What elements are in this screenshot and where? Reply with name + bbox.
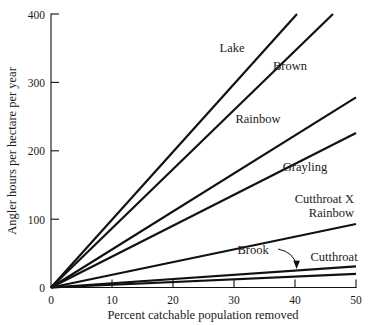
series-label-rainbow: Rainbow — [235, 112, 280, 126]
series-label-cutthroat-x-rainbow-line1: Cutthroat X — [295, 192, 354, 206]
series-line-brown — [51, 14, 333, 288]
series-labels: Lake Brown Rainbow Grayling Cutthroat X … — [220, 41, 359, 264]
x-tick-label-20: 20 — [167, 294, 179, 306]
x-tick-label-10: 10 — [106, 294, 118, 306]
y-axis-title: Angler hours per hectare per year — [5, 66, 19, 234]
x-tick-label-30: 30 — [228, 294, 240, 306]
chart-container: 400 300 200 100 0 0 10 20 30 40 50 Perce… — [0, 0, 369, 325]
y-tick-label-400: 400 — [28, 9, 46, 21]
x-tick-label-50: 50 — [350, 294, 362, 306]
brook-leader-arrow — [278, 249, 300, 269]
series-lines — [51, 14, 356, 288]
series-label-lake: Lake — [220, 41, 245, 55]
brook-leader-curve — [278, 249, 297, 266]
x-tick-label-0: 0 — [48, 294, 54, 306]
y-tick-labels: 400 300 200 100 0 — [28, 9, 46, 295]
brook-arrowhead — [293, 261, 300, 270]
x-axis-title: Percent catchable population removed — [107, 308, 299, 322]
x-tick-label-40: 40 — [289, 294, 301, 306]
y-tick-label-0: 0 — [39, 282, 45, 294]
y-tick-label-100: 100 — [28, 214, 46, 226]
y-tick-label-200: 200 — [28, 145, 46, 157]
y-tick-label-300: 300 — [28, 77, 46, 89]
angler-hours-line-chart: 400 300 200 100 0 0 10 20 30 40 50 Perce… — [0, 0, 369, 325]
series-label-grayling: Grayling — [283, 160, 328, 174]
series-label-cutthroat-x-rainbow-line2: Rainbow — [309, 206, 354, 220]
series-label-brown: Brown — [273, 59, 308, 73]
series-label-brook: Brook — [237, 243, 269, 257]
y-tick-marks — [51, 14, 59, 219]
series-label-cutthroat: Cutthroat — [310, 250, 358, 264]
x-tick-labels: 0 10 20 30 40 50 — [48, 294, 362, 306]
